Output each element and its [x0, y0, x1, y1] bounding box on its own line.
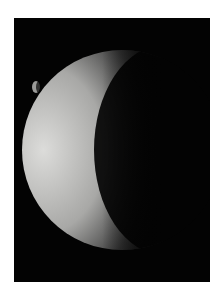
planet-scene — [14, 18, 210, 282]
photo-frame — [14, 18, 210, 282]
moon — [32, 81, 42, 93]
